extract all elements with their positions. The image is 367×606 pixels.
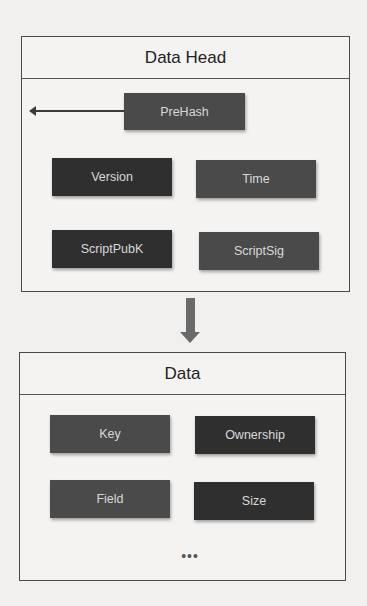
down-arrow-icon [186, 298, 195, 334]
time-box: Time [196, 160, 316, 198]
prehash-box: PreHash [124, 93, 245, 130]
scriptpubk-box: ScriptPubK [52, 230, 172, 268]
ellipsis-more-icon: ••• [170, 548, 210, 564]
field-box: Field [50, 480, 170, 518]
data-title: Data [20, 353, 345, 395]
prehash-left-arrow-icon [35, 110, 124, 112]
ownership-box: Ownership [195, 416, 315, 454]
data-head-title: Data Head [22, 37, 349, 79]
size-box: Size [194, 482, 314, 520]
data-container: Data [19, 352, 346, 581]
version-box: Version [52, 158, 172, 196]
key-box: Key [50, 415, 170, 453]
scriptsig-box: ScriptSig [199, 232, 319, 270]
